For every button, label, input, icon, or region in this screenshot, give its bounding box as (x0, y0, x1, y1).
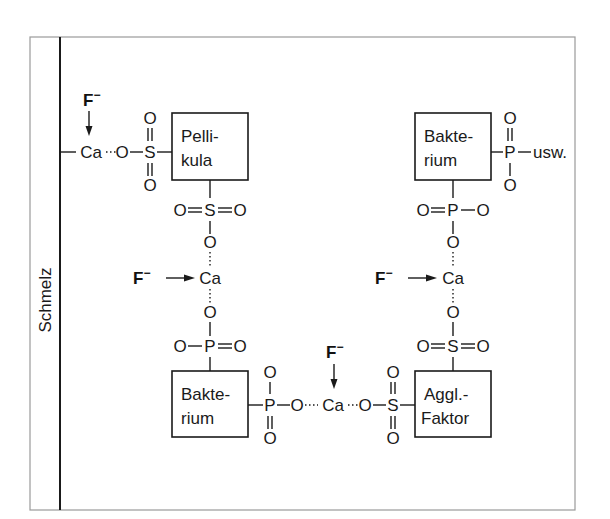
phosphorus-atom: P (264, 396, 275, 415)
oxygen-atom: O (115, 143, 128, 162)
oxygen-atom: O (233, 201, 246, 220)
oxygen-atom: O (446, 233, 459, 252)
oxygen-atom: O (173, 201, 186, 220)
bakterium-top-label-line1: Bakte- (424, 127, 473, 146)
phosphate-continuation: P O O usw. (491, 109, 567, 195)
bottom-horizontal-chain: P O O O Ca O S O O (248, 363, 415, 448)
fluoride-ion: F− (133, 266, 150, 288)
oxygen-atom: O (263, 363, 276, 382)
fluoride-attack-1: F− (83, 88, 100, 136)
diagram-frame (30, 37, 575, 510)
phosphorus-atom: P (504, 143, 515, 162)
oxygen-atom: O (476, 337, 489, 356)
fluoride-attack-4: F− (375, 266, 437, 288)
bakterium-top-label-line2: rium (424, 151, 457, 170)
arrow-down-icon (331, 379, 338, 389)
enamel-calcium-sulfate-link: Ca O S O O (60, 109, 172, 195)
sulfur-atom: S (387, 396, 398, 415)
oxygen-atom: O (503, 176, 516, 195)
pellikula-label-line2: kula (181, 151, 213, 170)
oxygen-atom: O (143, 176, 156, 195)
calcium-atom: Ca (199, 269, 221, 288)
bakterium-bottom-label-line1: Bakte- (181, 385, 230, 404)
fluoride-ion: F− (326, 340, 343, 362)
calcium-atom: Ca (442, 269, 464, 288)
oxygen-atom: O (173, 337, 186, 356)
oxygen-atom: O (386, 429, 399, 448)
fluoride-attack-2: F− (133, 266, 195, 288)
oxygen-atom: O (290, 396, 303, 415)
sulfur-atom: S (447, 337, 458, 356)
arrow-right-icon (184, 275, 195, 282)
arrow-right-icon (426, 275, 437, 282)
phosphorus-atom: P (447, 201, 458, 220)
aggl-faktor-label-line2: Faktor (421, 409, 470, 428)
continuation-label: usw. (533, 143, 567, 162)
oxygen-atom: O (386, 363, 399, 382)
aggl-faktor-label-line1: Aggl.- (424, 385, 468, 404)
sulfur-atom: S (204, 201, 215, 220)
calcium-atom: Ca (322, 396, 344, 415)
oxygen-atom: O (503, 109, 516, 128)
oxygen-atom: O (263, 429, 276, 448)
oxygen-atom: O (143, 109, 156, 128)
oxygen-atom: O (416, 337, 429, 356)
sulfur-atom: S (144, 143, 155, 162)
calcium-atom: Ca (80, 143, 102, 162)
oxygen-atom: O (476, 201, 489, 220)
bakterium-bottom-label-line2: rium (181, 409, 214, 428)
enamel-label: Schmelz (36, 267, 55, 332)
fluoride-binding-diagram: Schmelz Ca O S O O F− Pelli- kula O S O (0, 0, 610, 519)
arrow-down-icon (86, 126, 93, 136)
fluoride-ion: F− (375, 266, 392, 288)
pellikula-label-line1: Pelli- (181, 127, 219, 146)
oxygen-atom: O (358, 396, 371, 415)
oxygen-atom: O (203, 303, 216, 322)
fluoride-attack-3: F− (326, 340, 343, 389)
phosphorus-atom: P (204, 337, 215, 356)
oxygen-atom: O (416, 201, 429, 220)
oxygen-atom: O (203, 233, 216, 252)
oxygen-atom: O (446, 303, 459, 322)
fluoride-ion: F− (83, 88, 100, 110)
oxygen-atom: O (233, 337, 246, 356)
